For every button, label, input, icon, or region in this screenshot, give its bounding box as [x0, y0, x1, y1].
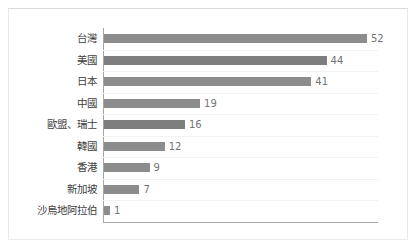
bar-value-label: 12	[169, 136, 182, 158]
bar	[104, 163, 150, 172]
category-label: 日本	[77, 71, 97, 93]
bar-row: 香港9	[103, 157, 378, 179]
bar-value-label: 41	[315, 71, 328, 93]
category-label: 韓國	[77, 136, 97, 158]
bar	[104, 77, 311, 86]
bar-row: 韓國12	[103, 136, 378, 158]
bar-row: 歐盟、瑞士16	[103, 114, 378, 136]
bar-value-label: 19	[204, 93, 217, 115]
bar-row: 沙烏地阿拉伯1	[103, 200, 378, 222]
bar	[104, 142, 165, 151]
bar-row: 日本41	[103, 71, 378, 93]
category-label: 台灣	[77, 28, 97, 50]
bar	[104, 185, 139, 194]
bar	[104, 206, 110, 215]
bar-value-label: 1	[114, 200, 120, 222]
category-label: 沙烏地阿拉伯	[37, 200, 97, 222]
category-label: 中國	[77, 93, 97, 115]
bar	[104, 56, 327, 65]
bar	[104, 99, 200, 108]
bar-value-label: 7	[143, 179, 149, 201]
category-label: 香港	[77, 157, 97, 179]
plot-area: 台灣52美國44日本41中國19歐盟、瑞士16韓國12香港9新加坡7沙烏地阿拉伯…	[103, 28, 378, 222]
bar-row: 新加坡7	[103, 179, 378, 201]
bar-chart-figure: 台灣52美國44日本41中國19歐盟、瑞士16韓國12香港9新加坡7沙烏地阿拉伯…	[0, 0, 416, 248]
bar-value-label: 9	[154, 157, 160, 179]
bar	[104, 120, 185, 129]
category-label: 歐盟、瑞士	[47, 114, 97, 136]
bar-row: 台灣52	[103, 28, 378, 50]
category-label: 新加坡	[67, 179, 97, 201]
value-axis-line	[103, 222, 378, 223]
bar-row: 美國44	[103, 50, 378, 72]
bar-row: 中國19	[103, 93, 378, 115]
bar	[104, 34, 367, 43]
category-label: 美國	[77, 50, 97, 72]
bar-value-label: 52	[371, 28, 384, 50]
bar-value-label: 16	[189, 114, 202, 136]
bar-value-label: 44	[331, 50, 344, 72]
